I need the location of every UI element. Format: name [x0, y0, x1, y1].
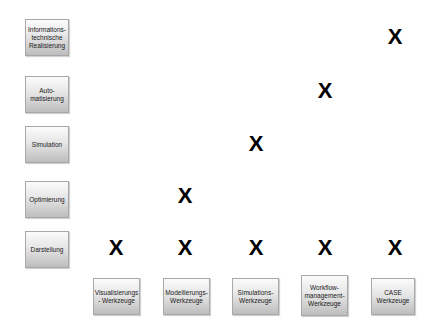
x-mark-icon: X	[173, 184, 197, 208]
column-label-case-werkzeuge: CASE Werkzeuge	[371, 278, 415, 315]
column-label-modellierungs-werkzeuge: Modellierungs- Werkzeuge	[163, 278, 210, 315]
row-label-simulation: Simulation	[25, 126, 69, 163]
x-mark-icon: X	[244, 132, 268, 156]
row-label-optimierung: Optimierung	[25, 181, 69, 218]
x-mark-icon: X	[104, 236, 128, 260]
column-label-simulations-werkzeuge: Simulations- Werkzeuge	[232, 278, 279, 315]
row-label-automatisierung: Auto- matisierung	[25, 76, 69, 113]
x-mark-icon: X	[244, 236, 268, 260]
column-label-workflowmanagement-werkzeuge: Workflow- management- Werkzeuge	[301, 275, 348, 316]
x-mark-icon: X	[383, 236, 407, 260]
row-label-informationstechnische-realisierung: Informations- technische Realisierung	[25, 19, 69, 56]
x-mark-icon: X	[173, 236, 197, 260]
x-mark-icon: X	[383, 25, 407, 49]
row-label-darstellung: Darstellung	[25, 231, 69, 268]
column-label-visualisierungs-werkzeuge: Visualisierungs - Werkzeuge	[93, 278, 140, 315]
x-mark-icon: X	[313, 79, 337, 103]
x-mark-icon: X	[313, 236, 337, 260]
